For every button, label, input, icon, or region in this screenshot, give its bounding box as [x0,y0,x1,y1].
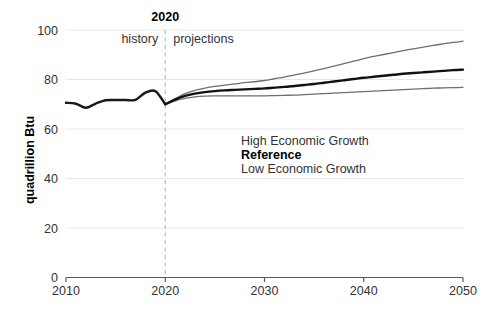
divider-year-label: 2020 [151,10,179,24]
y-axis-title: quadrillion Btu [23,116,37,204]
y-tick-80: 80 [44,73,58,87]
legend-item-reference: Reference [241,148,301,162]
x-tick-2020: 2020 [151,284,179,298]
line-chart: 020406080100 20102020203020402050 2020 h… [0,0,499,318]
legend-item-high-economic-growth: High Economic Growth [241,134,369,148]
x-tick-2040: 2040 [350,284,378,298]
y-tick-20: 20 [44,222,58,236]
divider-projections-label: projections [173,32,233,46]
x-tick-2010: 2010 [52,284,80,298]
x-tick-2030: 2030 [251,284,279,298]
divider-history-label: history [121,32,159,46]
y-tick-60: 60 [44,123,58,137]
chart-container: 020406080100 20102020203020402050 2020 h… [0,0,499,318]
y-tick-100: 100 [37,24,58,38]
legend-item-low-economic-growth: Low Economic Growth [241,162,366,176]
y-tick-40: 40 [44,172,58,186]
x-tick-2050: 2050 [449,284,477,298]
